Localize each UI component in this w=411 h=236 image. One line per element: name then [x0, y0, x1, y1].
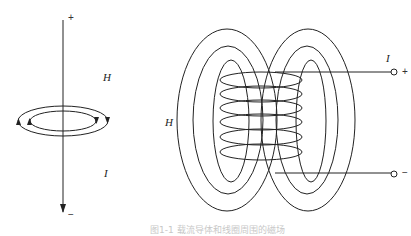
loop-arrow-down-icon: [105, 117, 110, 124]
wire-arrow-icon: [60, 204, 66, 213]
solenoid-field-label: H: [165, 116, 173, 128]
field-loop: [276, 46, 338, 194]
straight-conductor-group: [16, 20, 110, 213]
loop-arrow-up-icon: [16, 118, 21, 125]
figure-caption: 图1-1 载流导体和线圈周围的磁场: [150, 223, 285, 236]
field-label: H: [103, 71, 111, 83]
minus-label: −: [68, 209, 74, 220]
loop-arrow-up-icon: [27, 118, 32, 125]
plus-label: +: [68, 12, 74, 23]
magnetic-field-diagram: [0, 0, 411, 236]
terminal-minus-label: −: [402, 167, 408, 178]
field-loop: [193, 46, 263, 194]
current-label: I: [104, 167, 108, 179]
field-loop: [261, 29, 355, 211]
solenoid-group: [177, 29, 397, 211]
field-loop: [213, 60, 249, 182]
solenoid-current-label: I: [386, 52, 390, 64]
terminal-positive-icon: [391, 69, 397, 75]
terminal-plus-label: +: [402, 66, 408, 77]
loop-arrow-down-icon: [94, 117, 99, 124]
terminal-negative-icon: [391, 171, 397, 177]
field-loop: [177, 29, 277, 211]
